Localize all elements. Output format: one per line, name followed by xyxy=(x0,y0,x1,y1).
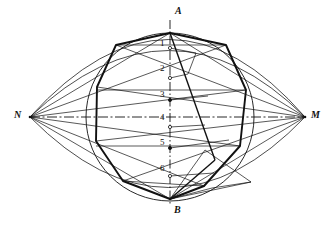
connector-2-to-1 xyxy=(188,53,196,74)
pole-top-marker xyxy=(169,32,171,34)
division-point-5 xyxy=(168,146,171,149)
label-pole-top-A: A xyxy=(175,6,182,16)
division-point-6 xyxy=(168,174,171,177)
label-division-3: 3 xyxy=(160,90,165,99)
connector-6 xyxy=(170,173,214,176)
connector-4 xyxy=(170,125,205,127)
apex-right-marker xyxy=(304,116,307,119)
oblique-chords xyxy=(170,33,215,199)
diagram-canvas: A B N M 1 2 3 4 5 6 xyxy=(0,0,334,228)
label-apex-right-M: M xyxy=(311,110,320,120)
division-point-4 xyxy=(168,125,171,128)
label-pole-bottom-B: B xyxy=(174,205,181,215)
outer-arc-upper xyxy=(30,40,305,118)
chord-M-to-v9 xyxy=(97,87,305,117)
geometry-figure xyxy=(0,0,334,228)
chord-N-to-A xyxy=(30,33,170,117)
outer-arc-upper-secondary xyxy=(30,51,305,118)
chord-M-to-v7 xyxy=(123,117,305,181)
label-division-4: 4 xyxy=(160,113,165,122)
label-division-2: 2 xyxy=(160,64,165,73)
division-connectors xyxy=(170,48,229,176)
pole-bottom-marker xyxy=(169,198,171,200)
outer-arc-lower xyxy=(30,117,305,188)
division-point-1 xyxy=(168,46,171,49)
inscribed-polygon xyxy=(96,33,246,199)
label-division-6: 6 xyxy=(160,164,165,173)
apex-markers xyxy=(29,32,307,200)
chord-N-to-B xyxy=(30,117,170,199)
division-point-2 xyxy=(168,76,171,79)
label-division-5: 5 xyxy=(160,138,165,147)
chord-M-to-B xyxy=(170,117,305,199)
chord-M-to-A xyxy=(170,33,305,117)
label-division-1: 1 xyxy=(160,39,165,48)
label-apex-left-N: N xyxy=(14,110,21,120)
chord-M-to-v10 xyxy=(116,45,305,117)
apex-left-marker xyxy=(29,116,32,119)
division-point-3 xyxy=(168,98,171,101)
